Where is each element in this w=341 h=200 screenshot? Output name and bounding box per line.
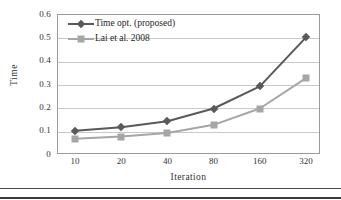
x-tick-label: 80	[194, 157, 234, 166]
legend-marker-square-icon	[68, 33, 94, 44]
legend-label: Lai et al. 2008	[94, 33, 150, 44]
legend-marker-diamond-icon	[68, 18, 94, 29]
legend-label: Time opt. (proposed)	[94, 18, 175, 29]
figure-container: 00.10.20.30.40.50.6 Time Iteration Time …	[0, 0, 341, 200]
series-line-2	[75, 78, 306, 139]
page-rule-lower	[0, 197, 341, 199]
chart-legend: Time opt. (proposed)Lai et al. 2008	[68, 17, 175, 45]
x-tick-label: 20	[101, 157, 141, 166]
x-tick-label: 40	[147, 157, 187, 166]
legend-item-1[interactable]: Time opt. (proposed)	[68, 17, 175, 30]
legend-item-2[interactable]: Lai et al. 2008	[68, 32, 175, 45]
x-tick-label: 10	[55, 157, 95, 166]
x-tick-label: 160	[240, 157, 280, 166]
x-tick-label: 320	[286, 157, 326, 166]
series-line-1	[75, 37, 306, 130]
page-rule-upper	[0, 188, 341, 189]
